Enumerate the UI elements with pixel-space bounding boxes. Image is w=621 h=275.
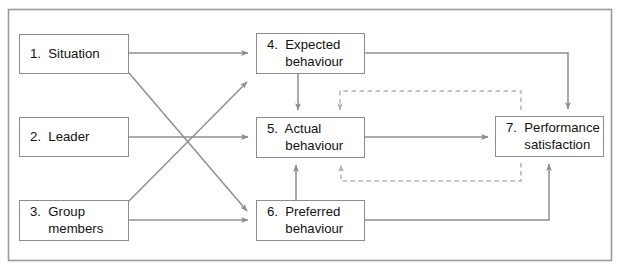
node-actual-behaviour[interactable]: 5. Actual behaviour [256,117,365,158]
node-group-members[interactable]: 3. Group members [19,200,129,241]
node-expected-behaviour[interactable]: 4. Expected behaviour [256,33,365,74]
node-performance-satisfaction[interactable]: 7. Performance satisfaction [495,116,604,157]
node-expected-behaviour-label: 4. Expected behaviour [257,37,343,69]
edge-performance-feedback-upper [340,91,521,110]
node-group-members-label: 3. Group members [20,204,103,236]
diagram-figure: 1. Situation 2. Leader 3. Group members … [0,0,621,275]
node-preferred-behaviour[interactable]: 6. Preferred behaviour [256,200,365,241]
node-leader-label: 2. Leader [20,129,89,145]
node-preferred-behaviour-label: 6. Preferred behaviour [257,204,343,236]
edge-performance-feedback-lower [341,163,521,181]
edge-expected-to-performance [365,53,568,109]
node-situation-label: 1. Situation [20,46,100,62]
edge-group-to-expected [129,82,247,201]
node-situation[interactable]: 1. Situation [19,34,129,74]
node-performance-satisfaction-label: 7. Performance satisfaction [496,120,600,152]
node-leader[interactable]: 2. Leader [19,117,129,157]
node-actual-behaviour-label: 5. Actual behaviour [257,121,343,153]
